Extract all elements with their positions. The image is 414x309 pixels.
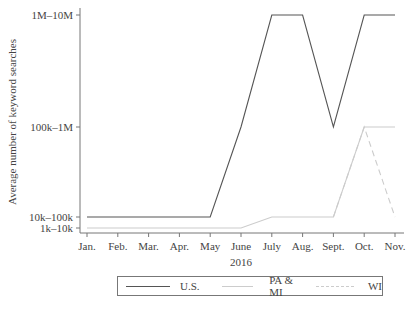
legend-item-wi: WI: [316, 280, 382, 292]
x-tick-label: July: [263, 240, 282, 252]
legend-item-pa-mi: PA & MI: [222, 274, 298, 298]
legend-item-us: U.S.: [126, 280, 200, 292]
series-line-wi: [333, 127, 395, 217]
x-tick-label: Aug.: [292, 240, 314, 252]
x-tick-label: Sept.: [322, 240, 345, 252]
dashed-line-swatch-icon: [316, 286, 354, 287]
x-tick-label: Feb.: [108, 240, 128, 252]
x-tick-label: May: [200, 240, 221, 252]
legend-label: PA & MI: [269, 274, 298, 298]
series-line-u-s-: [87, 15, 395, 217]
legend-label: WI: [368, 280, 382, 292]
x-axis-label: 2016: [230, 256, 253, 268]
series-line-pa-mi: [87, 127, 395, 228]
x-tick-label: Nov.: [385, 240, 406, 252]
x-tick-label: June: [231, 240, 251, 252]
y-tick-label: 1k–10k: [40, 222, 74, 234]
line-chart: 1k–10k10k–100k100k–1M1M–10MJan.Feb.Mar.A…: [0, 0, 414, 270]
x-tick-label: Jan.: [78, 240, 96, 252]
legend: U.S. PA & MI WI: [117, 276, 383, 296]
x-tick-label: Oct.: [355, 240, 374, 252]
solid-line-swatch-icon: [126, 286, 170, 287]
y-axis-label: Average number of keyword searches: [6, 39, 18, 205]
legend-label: U.S.: [180, 280, 200, 292]
y-tick-label: 100k–1M: [30, 121, 73, 133]
y-tick-label: 10k–100k: [29, 211, 74, 223]
x-tick-label: Mar.: [138, 240, 159, 252]
y-tick-label: 1M–10M: [31, 9, 73, 21]
solid-line-swatch-icon: [222, 286, 254, 287]
x-tick-label: Apr.: [170, 240, 190, 252]
